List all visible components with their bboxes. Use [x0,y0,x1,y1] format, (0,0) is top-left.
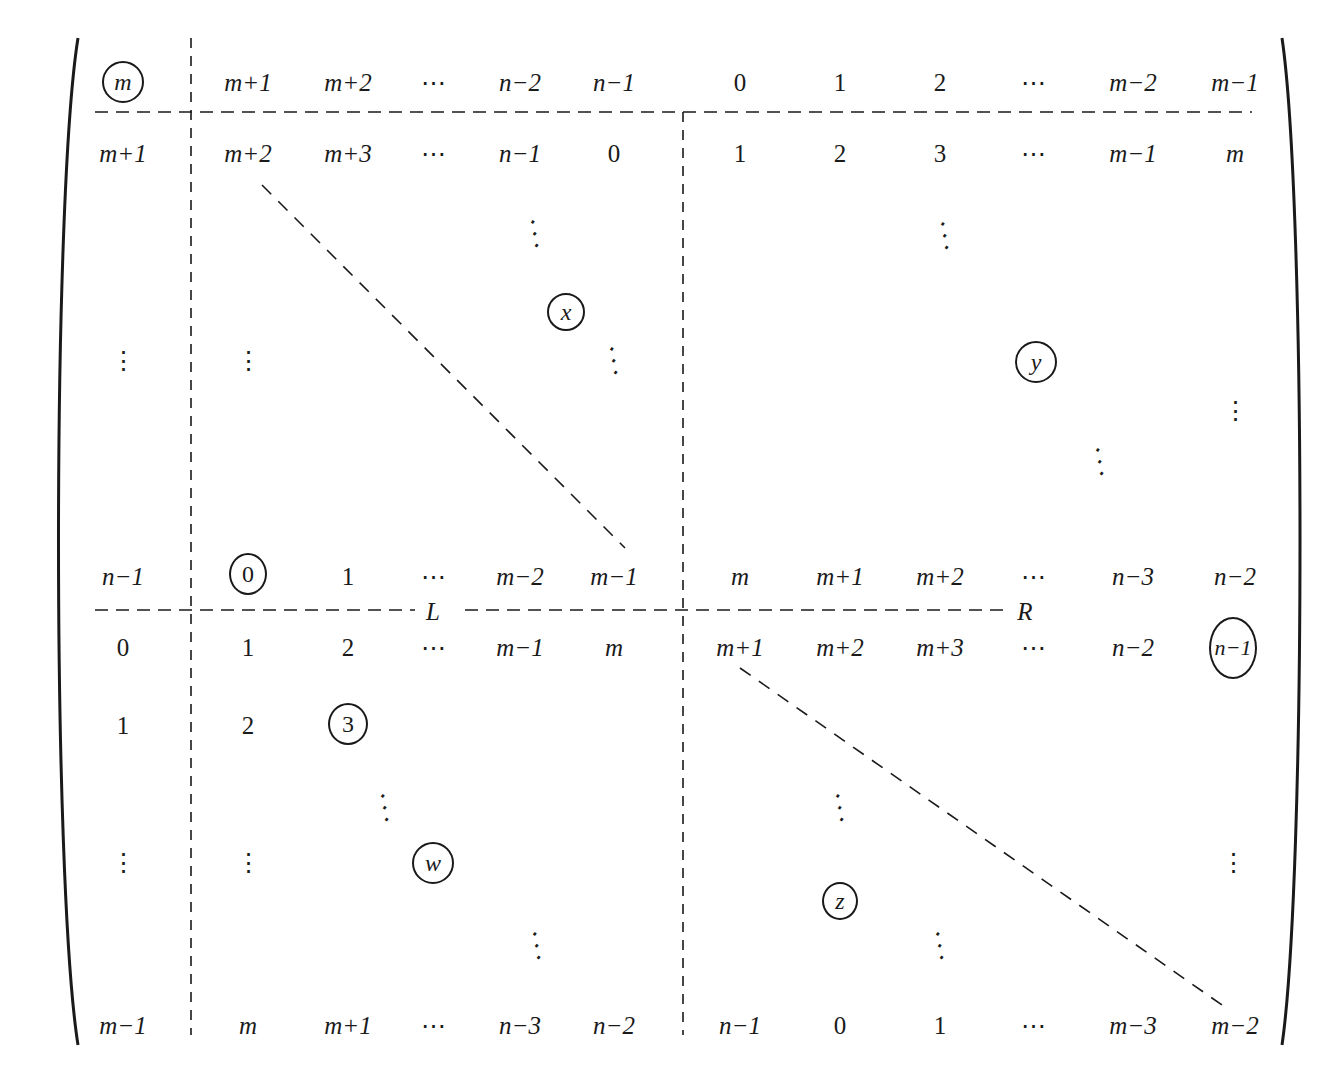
cell: 0 [734,70,747,95]
hdots: ⋯ [1021,70,1046,95]
cell: m [1226,141,1244,166]
vdots: ⋮ [111,348,136,373]
cell: 0 [117,635,130,660]
cell: m+3 [916,635,963,660]
label-R: R [1013,598,1036,626]
cell: 3 [934,141,947,166]
cell: m−1 [1109,141,1156,166]
cell: m [605,635,623,660]
hdots: ⋯ [1021,635,1046,660]
hdots: ⋯ [421,564,446,589]
cell: 1 [342,564,355,589]
hdots: ⋯ [1021,141,1046,166]
cell: m−1 [1211,70,1258,95]
cell: m+1 [224,70,271,95]
cell: 0 [608,141,621,166]
cell: 1 [242,635,255,660]
cell: m+2 [224,141,271,166]
circled-x: x [547,293,585,331]
cell: n−2 [1214,564,1256,589]
circled-m: m [102,61,144,103]
cell: m+3 [324,141,371,166]
vdots: ⋮ [1223,398,1248,423]
cell: m+2 [916,564,963,589]
cell: 2 [342,635,355,660]
cell: 1 [834,70,847,95]
cell: m−2 [1109,70,1156,95]
cell: n−1 [499,141,541,166]
cell: m+1 [324,1013,371,1038]
label-L: L [422,598,444,626]
left-parenthesis [59,38,79,1045]
hdots: ⋯ [421,70,446,95]
cell: 2 [242,713,255,738]
cell: m+1 [816,564,863,589]
cell: 2 [834,141,847,166]
hdots: ⋯ [421,635,446,660]
cell: n−3 [499,1013,541,1038]
cell: m+2 [816,635,863,660]
circled-n-minus-1: n−1 [1209,617,1257,679]
cell: m−1 [496,635,543,660]
hdots: ⋯ [421,1013,446,1038]
cell: m−1 [99,1013,146,1038]
cell: m−2 [1211,1013,1258,1038]
block-matrix: m m+1 m+2 ⋯ n−2 n−1 0 1 2 ⋯ m−2 m−1 m+1 … [0,0,1344,1083]
hdots: ⋯ [421,141,446,166]
vdots: ⋮ [236,850,261,875]
cell: n−2 [499,70,541,95]
cell: 1 [934,1013,947,1038]
cell: m−3 [1109,1013,1156,1038]
cell: m [239,1013,257,1038]
cell: n−3 [1112,564,1154,589]
vdots: ⋮ [111,850,136,875]
cell: m−1 [590,564,637,589]
diagonal-dashed-z-block [740,668,1222,1005]
cell: 0 [834,1013,847,1038]
hdots: ⋯ [1021,1013,1046,1038]
circled-z: z [822,882,858,920]
circled-w: w [412,842,454,884]
diagonal-dashed-x-block [262,185,625,548]
hdots: ⋯ [1021,564,1046,589]
circled-zero: 0 [229,553,267,595]
cell: n−1 [593,70,635,95]
cell: 2 [934,70,947,95]
cell: n−1 [102,564,144,589]
cell: n−1 [719,1013,761,1038]
vdots: ⋮ [1221,850,1246,875]
cell: m+1 [99,141,146,166]
cell: m−2 [496,564,543,589]
cell: m [731,564,749,589]
circled-three: 3 [328,703,368,745]
right-parenthesis [1282,38,1300,1045]
vdots: ⋮ [236,348,261,373]
cell: m+1 [716,635,763,660]
cell: n−2 [593,1013,635,1038]
cell: m+2 [324,70,371,95]
circled-y: y [1015,341,1057,383]
cell: n−2 [1112,635,1154,660]
cell: 1 [734,141,747,166]
cell: 1 [117,713,130,738]
